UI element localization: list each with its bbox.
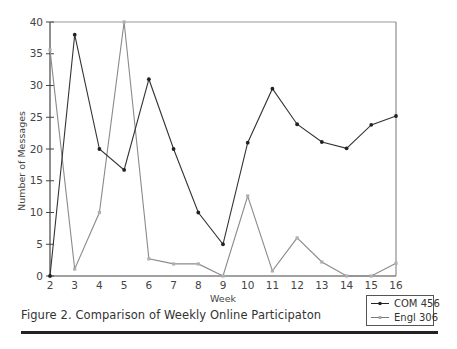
y-tick-label: 25 [30,111,43,123]
data-point [295,122,299,126]
data-point [246,194,249,197]
y-tick-label: 40 [30,16,43,28]
x-tick-label: 10 [241,279,254,291]
data-point [172,262,175,265]
data-point [369,123,373,127]
data-point [370,274,373,277]
data-point [147,257,150,260]
figure-caption: Figure 2. Comparison of Weekly Online Pa… [21,308,321,322]
series-line-com-456 [50,35,396,276]
data-point [345,274,348,277]
x-tick-label: 11 [266,279,279,291]
y-tick-label: 30 [30,79,43,91]
y-tick-label: 10 [30,206,43,218]
data-point [73,33,77,37]
y-tick-label: 35 [30,47,43,59]
chart-legend: COM 456 Engl 306 [366,295,434,326]
data-point [73,267,76,270]
y-tick-label: 5 [36,238,43,250]
x-tick-label: 2 [47,279,54,291]
legend-label: COM 456 [394,298,440,309]
data-point [394,262,397,265]
data-point [98,211,101,214]
x-tick-label: 15 [365,279,378,291]
data-point [123,20,126,23]
x-tick-label: 6 [146,279,153,291]
x-tick-label: 7 [170,279,177,291]
data-point [221,242,225,246]
y-tick-label: 0 [36,270,43,282]
data-point [394,114,398,118]
data-point [271,269,274,272]
data-point [197,262,200,265]
caption-rule [21,331,438,334]
series-line-engl-306 [50,22,396,276]
data-point [271,87,275,91]
data-point [98,147,102,151]
legend-line-marker-icon [370,297,390,310]
data-point [221,274,224,277]
data-point [320,260,323,263]
chart-series [48,20,398,278]
data-point [172,147,176,151]
y-axis-label: Number of Messages [16,111,27,211]
data-point [296,236,299,239]
data-point [196,211,200,215]
x-tick-label: 8 [195,279,202,291]
x-tick-label: 3 [71,279,78,291]
legend-item-engl-306: Engl 306 [370,311,438,324]
x-tick-label: 9 [220,279,227,291]
legend-line-marker-icon [370,311,390,324]
x-axis-label: Week [210,293,237,304]
x-tick-label: 12 [290,279,303,291]
legend-label: Engl 306 [394,312,438,323]
data-point [246,141,250,145]
data-point [320,140,324,144]
x-tick-label: 16 [389,279,403,291]
data-point [147,77,151,81]
data-point [122,168,126,172]
x-tick-label: 14 [340,279,354,291]
legend-item-com-456: COM 456 [370,297,440,310]
x-tick-label: 13 [315,279,328,291]
x-tick-label: 4 [96,279,103,291]
y-tick-label: 15 [30,174,43,186]
data-point [345,146,349,150]
x-tick-label: 5 [121,279,128,291]
data-point [48,274,52,278]
data-point [48,48,51,51]
y-tick-label: 20 [30,143,43,155]
